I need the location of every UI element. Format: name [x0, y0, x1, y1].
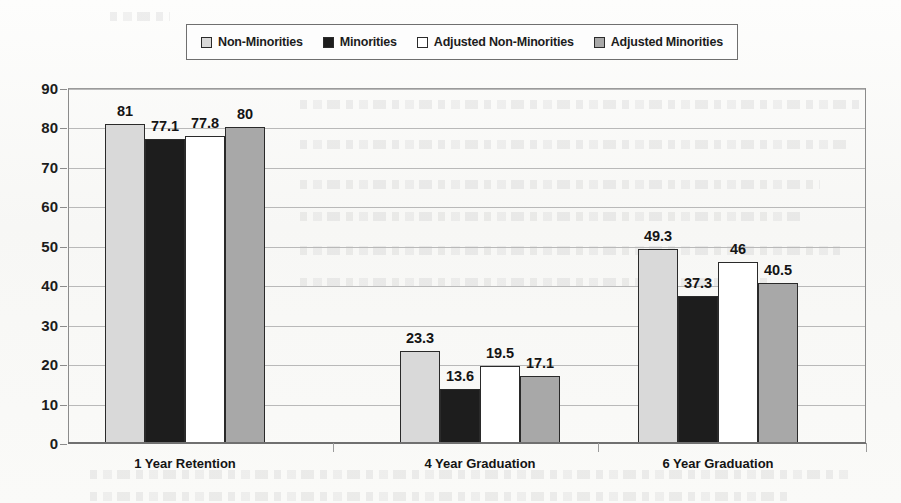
- y-axis-tick-label: 40: [18, 277, 58, 294]
- bar: [225, 127, 265, 443]
- y-axis-tick-label: 20: [18, 356, 58, 373]
- bar: [520, 376, 560, 443]
- bar: [678, 296, 718, 443]
- y-axis-tick: [60, 168, 67, 169]
- y-axis-tick: [60, 207, 67, 208]
- x-axis-tick: [866, 443, 867, 452]
- bar-value-label: 37.3: [684, 275, 712, 291]
- x-axis-tick: [598, 443, 599, 452]
- y-axis-tick-label: 0: [18, 435, 58, 452]
- bars-layer: [68, 88, 866, 443]
- legend-swatch-icon: [323, 37, 334, 48]
- y-axis-tick: [60, 247, 67, 248]
- y-axis-tick: [60, 405, 67, 406]
- bar-value-label: 17.1: [526, 355, 554, 371]
- x-axis-tick: [333, 443, 334, 452]
- bar-value-label: 40.5: [764, 262, 792, 278]
- y-axis-tick: [60, 444, 67, 445]
- y-axis-tick-label: 70: [18, 158, 58, 175]
- legend-swatch-icon: [417, 37, 428, 48]
- bar: [480, 366, 520, 443]
- y-axis-tick-label: 50: [18, 237, 58, 254]
- legend-item-minorities: Minorities: [323, 35, 397, 49]
- legend-swatch-icon: [201, 37, 212, 48]
- y-axis-tick: [60, 326, 67, 327]
- y-axis-tick: [60, 286, 67, 287]
- y-axis-tick-label: 90: [18, 80, 58, 97]
- bar: [105, 124, 145, 444]
- bar-value-label: 46: [730, 241, 746, 257]
- legend-item-adjusted-non-minorities: Adjusted Non-Minorities: [417, 35, 574, 49]
- y-axis-tick-label: 30: [18, 316, 58, 333]
- bar: [718, 262, 758, 443]
- y-axis-tick: [60, 89, 67, 90]
- bar: [185, 136, 225, 443]
- legend-label: Minorities: [340, 35, 397, 49]
- bar-value-label: 80: [237, 106, 253, 122]
- y-axis-tick-label: 80: [18, 119, 58, 136]
- bar-value-label: 77.8: [191, 115, 219, 131]
- x-axis-line: [68, 442, 866, 444]
- bar-value-label: 77.1: [151, 118, 179, 134]
- bar: [638, 249, 678, 443]
- bar: [758, 283, 798, 443]
- category-label: 4 Year Graduation: [424, 456, 535, 471]
- category-label: 1 Year Retention: [134, 456, 236, 471]
- bar-value-label: 13.6: [446, 368, 474, 384]
- chart-page: Non-Minorities Minorities Adjusted Non-M…: [0, 0, 901, 503]
- y-axis-tick: [60, 365, 67, 366]
- y-axis-tick: [60, 128, 67, 129]
- chart-legend: Non-Minorities Minorities Adjusted Non-M…: [186, 24, 738, 60]
- bar: [440, 389, 480, 443]
- legend-label: Adjusted Non-Minorities: [434, 35, 574, 49]
- legend-item-adjusted-minorities: Adjusted Minorities: [594, 35, 723, 49]
- legend-label: Adjusted Minorities: [611, 35, 723, 49]
- category-label: 6 Year Graduation: [662, 456, 773, 471]
- bar: [400, 351, 440, 443]
- bar-value-label: 49.3: [644, 228, 672, 244]
- legend-item-non-minorities: Non-Minorities: [201, 35, 303, 49]
- bar-value-label: 23.3: [406, 330, 434, 346]
- legend-label: Non-Minorities: [218, 35, 303, 49]
- legend-swatch-icon: [594, 37, 605, 48]
- bar: [145, 139, 185, 443]
- bar-value-label: 19.5: [486, 345, 514, 361]
- y-axis-tick-label: 60: [18, 198, 58, 215]
- bar-value-label: 81: [117, 103, 133, 119]
- y-axis-tick-label: 10: [18, 395, 58, 412]
